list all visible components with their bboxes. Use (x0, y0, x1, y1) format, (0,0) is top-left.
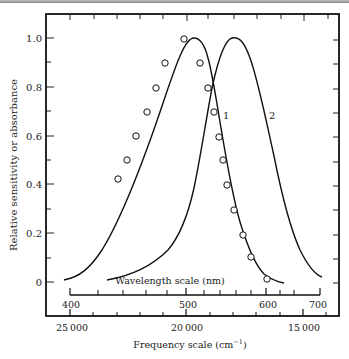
wl-600: 600 (259, 299, 277, 310)
ytick-1.0: 1.0 (26, 33, 42, 44)
ytick-0.4: 0.4 (26, 179, 42, 190)
frequency-scale-label: Frequency scale (cm−1) (133, 338, 246, 350)
wl-500: 500 (179, 299, 197, 310)
sensitivity-chart: 1.0 0.8 0.6 0.4 0.2 0 Relative sensitivi… (0, 0, 349, 359)
ytick-0.8: 0.8 (26, 82, 42, 93)
wavelength-axis (70, 288, 320, 295)
top-ticks (70, 14, 328, 21)
wl-700: 700 (309, 299, 327, 310)
y-tick-labels: 1.0 0.8 0.6 0.4 0.2 0 (26, 33, 42, 288)
wavelength-tick-labels: 400 500 600 700 (62, 299, 327, 310)
curve-1-label: 1 (223, 110, 229, 121)
fr-15000: 15 000 (288, 322, 320, 333)
frequency-tick-labels: 25 000 20 000 15 000 (56, 322, 320, 333)
y-ticks-left (46, 38, 54, 282)
curve-2-label: 2 (269, 110, 275, 121)
curve-1 (64, 38, 284, 283)
y-axis-label: Relative sensitivity or absorbance (8, 79, 19, 251)
ytick-0.2: 0.2 (26, 228, 42, 239)
wavelength-scale-label: Wavelength scale (nm) (115, 275, 225, 286)
wl-400: 400 (62, 299, 80, 310)
measured-points (115, 36, 270, 282)
fr-20000: 20 000 (171, 322, 203, 333)
plot-frame (46, 14, 339, 316)
ytick-0: 0 (36, 277, 42, 288)
curve-2 (107, 38, 322, 280)
frequency-ticks (70, 309, 326, 316)
fr-25000: 25 000 (56, 322, 88, 333)
ytick-0.6: 0.6 (26, 131, 42, 142)
